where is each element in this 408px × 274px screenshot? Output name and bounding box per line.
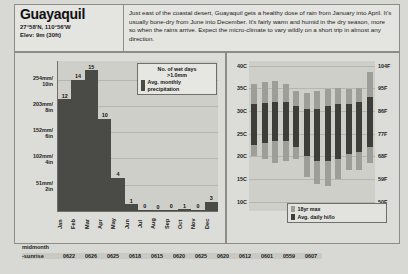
temperature-avg-bar — [262, 103, 268, 143]
wet-days-value: 0 — [151, 204, 164, 210]
month-label: Mar — [84, 213, 97, 235]
y-axis-tick: 203mm/8in — [15, 101, 53, 113]
wet-days-value: 12 — [58, 93, 71, 99]
precipitation-bar: 0 — [138, 210, 151, 211]
wet-days-value: 1 — [178, 203, 191, 209]
temperature-bar-cell — [333, 61, 344, 211]
month-label: Feb — [70, 213, 83, 235]
precipitation-bar: 0 — [165, 210, 178, 211]
legend-wet-days-line2: >1.0mm — [167, 72, 187, 78]
temperature-bar-cell — [312, 61, 323, 211]
fahrenheit-tick: 104F — [378, 63, 400, 69]
sunrise-time: 0625 — [102, 253, 124, 259]
legend-18yr-max-label: 18yr max — [298, 206, 321, 212]
header-panel: Guayaquil 27°58'N, 110°56'W Elev: 9m (30… — [14, 4, 400, 52]
footer-sunrise: midmonth -sunrise 0622062606250618061506… — [14, 244, 398, 272]
precipitation-bar: 1 — [125, 204, 138, 211]
month-label: Jan — [57, 213, 70, 235]
temperature-bar-cell — [354, 61, 365, 211]
temperature-legend: 18yr max Avg. daily hi/lo — [287, 203, 387, 223]
coordinates-label: 27°58'N, 110°56'W — [20, 23, 120, 31]
temperature-avg-bar — [314, 109, 320, 161]
sunrise-time: 0626 — [80, 253, 102, 259]
month-label: Nov — [190, 213, 203, 235]
month-label: May — [110, 213, 123, 235]
temperature-avg-bar — [304, 109, 310, 157]
fahrenheit-tick: 86F — [378, 108, 400, 114]
fahrenheit-tick: 59F — [378, 176, 400, 182]
temperature-avg-bar — [367, 97, 373, 147]
temperature-bar-cell — [260, 61, 271, 211]
temperature-avg-bar — [283, 102, 289, 141]
celsius-tick: 20C — [227, 153, 247, 159]
month-label: Sep — [164, 213, 177, 235]
precipitation-bar-cell: 15 — [85, 61, 98, 211]
temperature-avg-bar — [251, 104, 257, 145]
precipitation-bar: 0 — [151, 210, 164, 211]
precipitation-bar: 0 — [191, 210, 204, 211]
precipitation-panel: 1214151041000103 51mm/2in102mm/4in152mm/… — [14, 52, 226, 244]
legend-wet-days: No. of wet days >1.0mm — [141, 66, 213, 78]
sunrise-time: 0559 — [278, 253, 300, 259]
temperature-bar-cell — [323, 61, 334, 211]
sunrise-time: 0625 — [190, 253, 212, 259]
climate-chart-page: Guayaquil 27°58'N, 110°56'W Elev: 9m (30… — [0, 0, 408, 274]
fahrenheit-tick: 77F — [378, 131, 400, 137]
precipitation-bar-cell: 4 — [111, 61, 124, 211]
legend-avg-daily-swatch — [291, 214, 295, 220]
temperature-bar-cell — [302, 61, 313, 211]
legend-precipitation-line2: precipitation — [148, 86, 180, 92]
temperature-bars — [249, 61, 375, 211]
description-text: Just east of the coastal desert, Guayaqu… — [129, 9, 393, 43]
precipitation-bar-cell: 1 — [125, 61, 138, 211]
month-label: Jul — [137, 213, 150, 235]
temperature-bar-cell — [281, 61, 292, 211]
legend-18yr-max-swatch — [291, 206, 295, 212]
temperature-avg-bar — [346, 104, 352, 154]
wet-days-value: 0 — [138, 203, 151, 209]
celsius-tick: 10C — [227, 199, 247, 205]
legend-precipitation: Avg. monthly precipitation — [141, 79, 213, 91]
temperature-bar-cell — [365, 61, 376, 211]
location-block: Guayaquil 27°58'N, 110°56'W Elev: 9m (30… — [20, 7, 120, 39]
sunrise-time: 0620 — [212, 253, 234, 259]
sunrise-times: 0622062606250618061506200625062006120601… — [58, 253, 322, 259]
fahrenheit-tick: 68F — [378, 153, 400, 159]
footer-caption: midmonth — [22, 244, 49, 250]
precipitation-bar: 14 — [71, 80, 84, 211]
sunrise-time: 0622 — [58, 253, 80, 259]
temperature-avg-bar — [335, 104, 341, 159]
wet-days-value: 15 — [85, 64, 98, 70]
wet-days-value: 4 — [111, 171, 124, 177]
y-axis-tick: 102mm/4in — [15, 153, 53, 165]
wet-days-value: 10 — [98, 112, 111, 118]
temperature-plot — [249, 61, 375, 211]
legend-avg-daily: Avg. daily hi/lo — [291, 214, 383, 220]
y-axis-tick: 152mm/6in — [15, 127, 53, 139]
temperature-avg-bar — [293, 106, 299, 147]
precipitation-bar: 3 — [205, 202, 218, 211]
legend-avg-daily-label: Avg. daily hi/lo — [298, 214, 335, 220]
temperature-avg-bar — [325, 106, 331, 161]
fahrenheit-tick: 95F — [378, 85, 400, 91]
month-label: Apr — [97, 213, 110, 235]
precipitation-bar-cell: 10 — [98, 61, 111, 211]
sunrise-time: 0607 — [300, 253, 322, 259]
celsius-tick: 15C — [227, 176, 247, 182]
precipitation-legend: No. of wet days >1.0mm Avg. monthly prec… — [137, 63, 217, 95]
month-label: Dec — [204, 213, 217, 235]
wet-days-value: 1 — [125, 198, 138, 204]
temperature-avg-bar — [272, 102, 278, 141]
precipitation-bar: 1 — [178, 209, 191, 211]
legend-precipitation-swatch — [141, 80, 145, 91]
y-axis-tick: 254mm/10in — [15, 75, 53, 87]
sunrise-time: 0620 — [168, 253, 190, 259]
precipitation-bar: 10 — [98, 119, 111, 211]
celsius-tick: 30C — [227, 108, 247, 114]
precipitation-bar: 15 — [85, 70, 98, 211]
page-title: Guayaquil — [20, 7, 120, 22]
celsius-tick: 25C — [227, 131, 247, 137]
sunrise-time: 0618 — [124, 253, 146, 259]
sunrise-row-label: -sunrise — [22, 253, 58, 259]
precipitation-bar-cell: 14 — [71, 61, 84, 211]
